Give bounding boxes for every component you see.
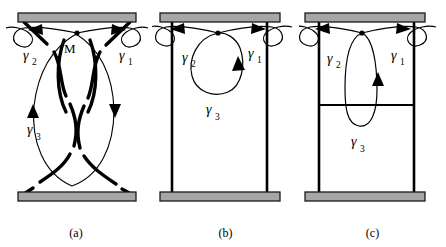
gamma2-sub: 2: [32, 57, 37, 67]
strand-segment-8: [78, 106, 84, 148]
basepoint-dot: [215, 30, 220, 35]
panel-a-diagram: γ 2 γ 1 γ 3 M: [0, 0, 152, 215]
panel-b-diagram: γ 2 γ 1 γ 3: [152, 0, 299, 215]
gamma3-loop-path: [191, 33, 243, 94]
gamma2-label: γ: [23, 48, 29, 63]
panel-b: γ 2 γ 1 γ 3 (b): [152, 0, 299, 247]
gamma1-arrowhead: [396, 23, 411, 34]
basepoint-label: M: [64, 41, 76, 56]
gamma1-label: γ: [119, 48, 125, 63]
bottom-bar: [18, 192, 136, 201]
top-bar: [160, 13, 280, 22]
gamma2-label: γ: [182, 50, 188, 65]
panel-a: γ 2 γ 1 γ 3 M (a): [0, 0, 152, 247]
bottom-bar: [160, 192, 280, 201]
gamma3-loop-path: [345, 33, 377, 126]
gamma3-arrow-up: [27, 104, 39, 118]
panel-b-caption: (b): [152, 226, 299, 241]
strand-segment-9: [84, 156, 116, 184]
basepoint-dot: [359, 30, 364, 35]
gamma1-sub: 1: [257, 55, 262, 65]
panel-c-caption: (c): [299, 226, 446, 241]
vertical-strands: [319, 20, 414, 195]
strand-segment-1: [24, 22, 47, 44]
gamma2-sub: 2: [336, 60, 341, 70]
gamma3-arrowhead: [372, 72, 384, 86]
panel-a-caption: (a): [0, 226, 152, 241]
gamma3-label: γ: [206, 102, 212, 117]
gamma1-sub: 1: [128, 57, 133, 67]
braid-loops-figure: γ 2 γ 1 γ 3 M (a): [0, 0, 446, 247]
basepoint-dot: [74, 30, 79, 35]
gamma1-arrowhead: [251, 23, 266, 34]
top-bar: [305, 13, 425, 22]
gamma3-sub: 3: [36, 132, 41, 142]
bottom-bar: [305, 192, 425, 201]
gamma3-label: γ: [351, 134, 357, 149]
gamma2-sub: 2: [191, 59, 196, 69]
gamma3-sub: 3: [215, 112, 220, 122]
gamma1-sub: 1: [400, 57, 405, 67]
gamma3-arrow-down: [109, 104, 121, 118]
gamma2-arrowhead: [315, 23, 330, 34]
strand-segment-4: [40, 154, 70, 182]
gamma3-sub: 3: [360, 144, 365, 154]
gamma1-label: γ: [248, 46, 254, 61]
strand-segment-3: [70, 104, 76, 146]
gamma1-label: γ: [391, 48, 397, 63]
strand-segment-6: [106, 22, 130, 45]
top-bar: [18, 13, 136, 22]
panel-c: γ 2 γ 1 γ 3 (c): [299, 0, 446, 247]
gamma2-label: γ: [327, 51, 333, 66]
panel-c-diagram: γ 2 γ 1 γ 3: [299, 0, 446, 215]
gamma3-label: γ: [27, 122, 33, 137]
